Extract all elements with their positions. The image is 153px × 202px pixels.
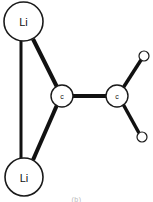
atom-h-lower[interactable] <box>137 132 147 142</box>
atom-label-c-center: c <box>60 93 64 100</box>
molecular-structure-figure: Li Li c c (b) <box>0 0 153 202</box>
atom-circle-h-lower <box>137 132 147 142</box>
atom-c-right[interactable]: c <box>106 85 128 107</box>
bond-li-bottom-c-center <box>33 105 57 160</box>
atom-h-upper[interactable] <box>139 51 149 61</box>
figure-caption: (b) <box>0 195 153 202</box>
atom-label-c-right: c <box>115 93 119 100</box>
atom-c-center[interactable]: c <box>51 85 73 107</box>
bond-li-top-c-center <box>33 39 57 87</box>
molecule-diagram: Li Li c c <box>0 0 153 202</box>
atom-label-li-top: Li <box>19 16 28 28</box>
atom-label-li-bottom: Li <box>20 172 29 184</box>
atom-li-bottom[interactable]: Li <box>5 158 43 196</box>
bond-c-right-h-upper <box>123 60 141 88</box>
atom-li-top[interactable]: Li <box>4 2 43 41</box>
atom-circle-h-upper <box>139 51 149 61</box>
bond-c-right-h-lower <box>123 104 139 133</box>
